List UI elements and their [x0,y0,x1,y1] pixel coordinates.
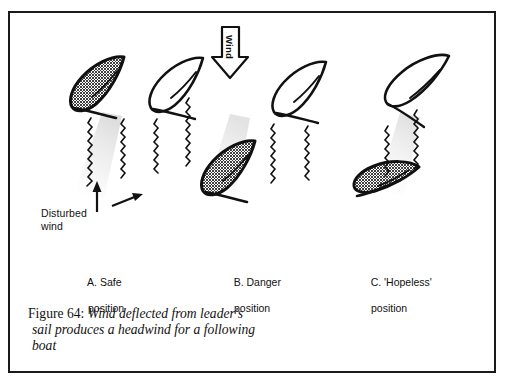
position-label-c-line1: C. 'Hopeless' [371,276,432,288]
figure-64-container: Wind Disturbed wind A. Safe position B. … [0,0,505,388]
disturbed-wind-label: Disturbed wind [41,207,87,232]
caption-line-2: sail produces a headwind for a following [28,322,338,338]
position-label-c: C. 'Hopeless' position [359,263,432,341]
figure-caption: Figure 64: Wind deflected from leader's … [28,306,338,355]
caption-line-3: boat [28,338,338,354]
wind-arrow-label: Wind [213,41,247,54]
caption-line-1: Wind deflected from leader's [88,306,243,321]
position-label-c-line2: position [359,302,432,315]
caption-prefix: Figure 64: [28,306,88,321]
position-label-b-line1: B. Danger [234,276,281,288]
position-label-a-line1: A. Safe [87,276,121,288]
